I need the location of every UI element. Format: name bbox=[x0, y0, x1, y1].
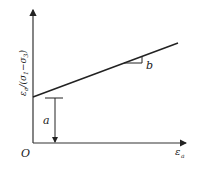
intercept-label: a bbox=[43, 114, 50, 127]
y-label-close: ) bbox=[18, 50, 28, 55]
y-axis-label: εa/(σ1−σ3) bbox=[18, 50, 29, 96]
svg-text:εa/(σ1−σ3): εa/(σ1−σ3) bbox=[18, 50, 29, 96]
y-label-minus-sigma: −σ bbox=[18, 57, 28, 72]
y-label-slash-sigma: /(σ bbox=[18, 74, 28, 89]
slope-label: b bbox=[146, 59, 153, 72]
x-label-sub: a bbox=[181, 152, 185, 159]
x-label-epsilon: ε bbox=[175, 146, 180, 157]
x-axis-label: ε a bbox=[175, 146, 185, 159]
relation-line bbox=[33, 43, 178, 97]
origin-label: O bbox=[21, 147, 30, 160]
hyperbolic-stress-strain-diagram: a b O ε a εa/(σ1−σ3) bbox=[0, 0, 199, 170]
